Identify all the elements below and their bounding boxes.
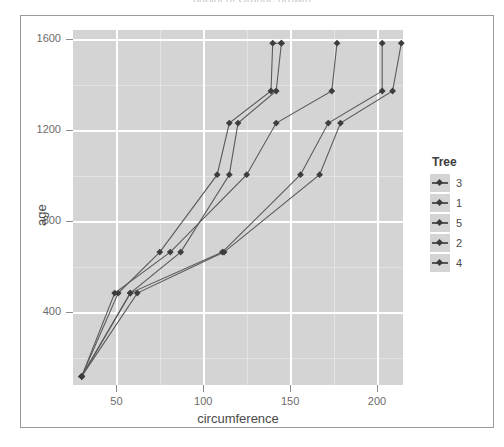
legend-item-label: 1 [456,197,462,209]
legend-item-label: 3 [456,177,462,189]
series-line-tree-1 [82,43,282,376]
legend-item-tree-4[interactable]: 4 [430,253,462,273]
legend-key-point [436,238,443,245]
legend-item-label: 5 [456,217,462,229]
legend-key-point [436,218,443,225]
legend-key-icon [430,174,450,192]
data-point [269,40,276,47]
series-line-tree-4 [82,43,383,376]
data-point [226,171,233,178]
data-point [337,120,344,127]
x-axis-title: circumference [197,411,279,426]
data-point [78,373,85,380]
data-point [379,88,386,95]
data-point [398,40,405,47]
legend-item-tree-3[interactable]: 3 [430,173,462,193]
legend-item-label: 2 [456,237,462,249]
data-point [334,40,341,47]
legend-title: Tree [430,155,462,169]
y-axis-title: age [34,204,49,226]
legend-key-icon [430,254,450,272]
legend-item-tree-1[interactable]: 1 [430,193,462,213]
series-line-tree-5 [82,43,337,376]
legend-items: 31524 [430,173,462,273]
legend-key-point [436,178,443,185]
legend-key-point [436,198,443,205]
data-point [273,120,280,127]
legend-key-icon [430,214,450,232]
legend-item-tree-2[interactable]: 2 [430,233,462,253]
data-point [379,40,386,47]
legend-item-label: 4 [456,257,462,269]
series-layer [0,0,504,447]
data-point [278,40,285,47]
data-point [389,88,396,95]
series-line-tree-3 [82,43,282,376]
chart-plot: 4008001200160050100150200 age circumfere… [0,0,504,447]
data-point [328,88,335,95]
legend-item-tree-5[interactable]: 5 [430,213,462,233]
legend-key-point [436,258,443,265]
chart-legend: Tree 31524 [430,155,462,273]
data-point [325,120,332,127]
series-line-tree-2 [82,43,402,376]
legend-key-icon [430,194,450,212]
legend-key-icon [430,234,450,252]
